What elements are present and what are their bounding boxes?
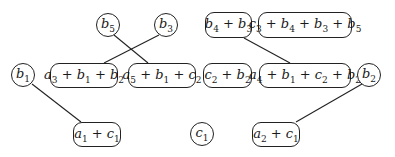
node-c3b4b3b5: c3 + b4 + b3 + b5 [258,12,352,38]
node-b4b3: b4 + b3 [205,12,252,38]
edge-b2-to-a2c1 [296,84,362,122]
node-a2c1: a2 + c1 [252,122,300,147]
node-label: b3 [159,16,173,34]
node-b1: b1 [11,63,35,87]
node-c2b2: c2 + b2 [203,63,252,88]
edge-b4b3-to-a4b1c2b2 [244,38,290,63]
node-label: c3 + b4 + b3 + b5 [249,16,362,34]
node-label: a5 + b1 + c2 [123,67,202,85]
node-a5b1c2: a5 + b1 + c2 [128,63,196,88]
node-c1: c1 [190,122,214,146]
node-a3b1b2: a3 + b1 + b2 [50,63,118,88]
node-b2: b2 [357,63,381,87]
node-a1c1: a1 + c1 [73,122,121,147]
node-a4b1c2b2: a4 + b1 + c2 + b2 [259,63,351,88]
node-label: b2 [362,66,376,84]
node-label: b4 + b3 [205,16,252,34]
edge-b3-to-a3b1b2 [104,35,159,63]
edge-b1-to-a1c1 [32,84,81,122]
node-label: a3 + b1 + b2 [44,67,124,85]
node-label: a4 + b1 + c2 + b2 [249,67,361,85]
node-label: a1 + c1 [74,126,120,144]
node-label: c1 [195,125,208,143]
node-label: a2 + c1 [253,126,299,144]
node-b5: b5 [96,13,120,37]
node-b3: b3 [154,13,178,37]
node-label: b1 [16,66,30,84]
node-label: c2 + b2 [204,67,250,85]
node-label: b5 [101,16,115,34]
